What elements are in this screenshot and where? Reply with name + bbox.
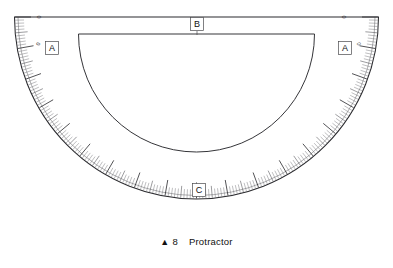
- caption-text: Protractor: [189, 236, 233, 247]
- scale-numbers: 0101702016030150401405013060120701108010…: [36, 0, 356, 19]
- callout-A-left: A: [46, 42, 59, 55]
- callout-C: C: [193, 184, 206, 197]
- figure-caption: ▲8Protractor: [0, 236, 393, 247]
- callout-letter: A: [342, 43, 348, 53]
- callout-letter: B: [194, 19, 200, 29]
- callout-letter: A: [49, 43, 55, 53]
- callout-B: B: [191, 18, 204, 31]
- protractor-figure: 0101702016030150401405013060120701108010…: [0, 0, 393, 268]
- callout-A-right: A: [339, 42, 352, 55]
- callout-letter: C: [196, 185, 203, 195]
- protractor-svg: 0101702016030150401405013060120701108010…: [0, 0, 393, 268]
- scale-number-inner: 0: [341, 16, 347, 19]
- scale-number-outer: 0: [36, 16, 42, 19]
- caption-number: 8: [172, 236, 177, 247]
- caption-triangle-icon: ▲: [160, 237, 169, 247]
